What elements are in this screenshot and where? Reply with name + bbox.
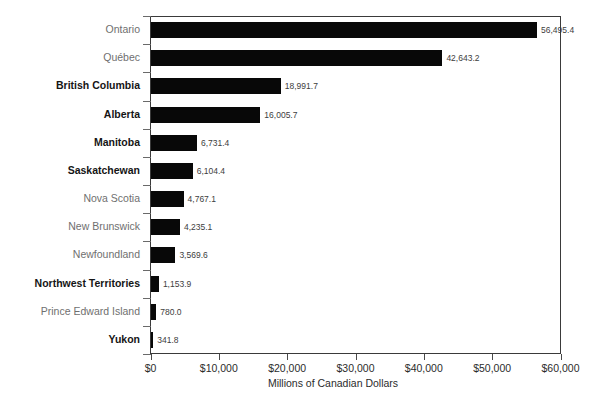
bar-value-label: 6,731.4 [201, 139, 229, 148]
y-axis-tick [143, 16, 151, 17]
y-axis-tick [143, 72, 151, 73]
category-label: Prince Edward Island [0, 306, 140, 317]
bars-layer: 56,495.442,643.218,991.716,005.76,731.46… [151, 17, 561, 353]
bar [151, 304, 156, 320]
category-axis-labels: OntarioQuébecBritish ColumbiaAlbertaMani… [0, 16, 146, 354]
y-axis-tick [143, 101, 151, 102]
x-axis-tick-label: $20,000 [268, 362, 306, 374]
bar-value-label: 6,104.4 [197, 167, 225, 176]
bar [151, 191, 184, 207]
bar [151, 219, 180, 235]
y-axis-tick [143, 129, 151, 130]
x-axis-tick-label: $40,000 [405, 362, 443, 374]
bar-value-label: 42,643.2 [446, 54, 479, 63]
y-axis-tick [143, 270, 151, 271]
bar-value-label: 3,569.6 [179, 251, 207, 260]
category-label: Newfoundland [0, 249, 140, 260]
x-axis-title: Millions of Canadian Dollars [0, 377, 604, 389]
category-label: Alberta [0, 109, 140, 120]
bar [151, 163, 193, 179]
x-axis-tick-label: $10,000 [200, 362, 238, 374]
x-axis-tick [356, 354, 357, 360]
category-label: Nova Scotia [0, 193, 140, 204]
category-label: Yukon [0, 334, 140, 345]
category-label: British Columbia [0, 80, 140, 91]
bar [151, 107, 260, 123]
bar [151, 50, 442, 66]
bar [151, 247, 175, 263]
bar-value-label: 4,235.1 [184, 223, 212, 232]
y-axis-tick [143, 44, 151, 45]
category-label: Québec [0, 52, 140, 63]
category-label: Manitoba [0, 137, 140, 148]
x-axis-tick-label: $60,000 [542, 362, 580, 374]
y-axis-tick [143, 213, 151, 214]
x-axis-tick-label: $0 [145, 362, 157, 374]
y-axis-tick [143, 157, 151, 158]
y-axis-tick [143, 185, 151, 186]
bar-value-label: 780.0 [160, 308, 181, 317]
x-axis-tick [287, 354, 288, 360]
bar-value-label: 56,495.4 [541, 26, 574, 35]
bar [151, 78, 281, 94]
category-label: Ontario [0, 24, 140, 35]
x-axis-tick [561, 354, 562, 360]
bar-value-label: 341.8 [157, 336, 178, 345]
bar-value-label: 4,767.1 [188, 195, 216, 204]
bar-value-label: 18,991.7 [285, 82, 318, 91]
x-axis-tick-label: $50,000 [473, 362, 511, 374]
x-axis-tick [424, 354, 425, 360]
horizontal-bar-chart: OntarioQuébecBritish ColumbiaAlbertaMani… [0, 0, 604, 406]
x-axis-tick [151, 354, 152, 360]
category-label: New Brunswick [0, 221, 140, 232]
bar [151, 22, 537, 38]
y-axis-tick [143, 298, 151, 299]
category-label: Saskatchewan [0, 165, 140, 176]
y-axis-tick [143, 326, 151, 327]
bar-value-label: 16,005.7 [264, 111, 297, 120]
category-label: Northwest Territories [0, 278, 140, 289]
bar [151, 276, 159, 292]
x-axis-tick [219, 354, 220, 360]
x-axis-title-text: Millions of Canadian Dollars [268, 377, 398, 389]
bar [151, 135, 197, 151]
y-axis-tick [143, 241, 151, 242]
bar-value-label: 1,153.9 [163, 280, 191, 289]
x-axis-tick [492, 354, 493, 360]
x-axis-tick-label: $30,000 [337, 362, 375, 374]
bar [151, 332, 153, 348]
